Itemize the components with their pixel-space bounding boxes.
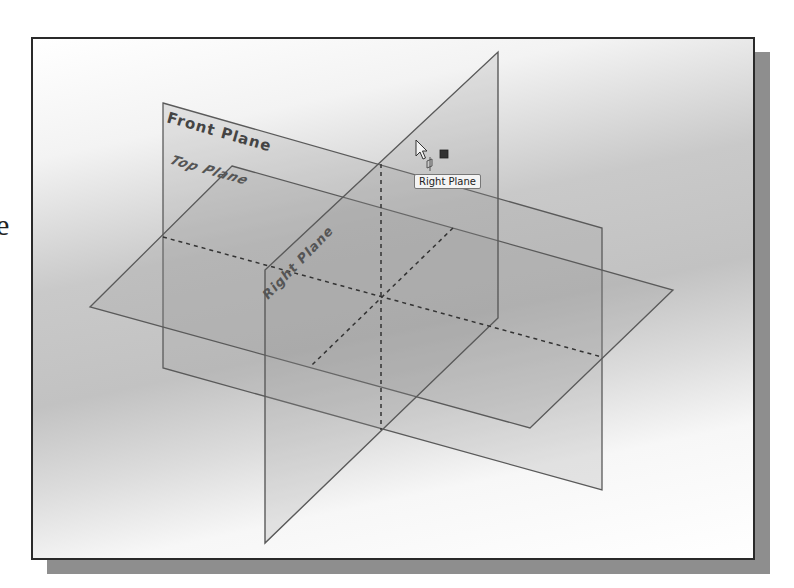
- selection-filter-icon: [440, 150, 448, 158]
- datum-planes-scene: Front Plane Top Plane Right Plane: [0, 0, 794, 588]
- tooltip-right-plane: Right Plane: [414, 174, 481, 189]
